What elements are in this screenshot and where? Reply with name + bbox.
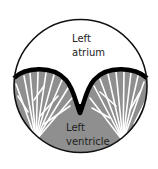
atrium-label-line1: Left bbox=[72, 33, 91, 44]
atrium-label-line2: atrium bbox=[72, 47, 105, 58]
diagram-canvas: Left atrium Left ventricle bbox=[0, 0, 158, 169]
ventricle-label-line1: Left bbox=[66, 122, 85, 133]
ventricle-label-line2: ventricle bbox=[66, 136, 110, 147]
mitral-valve-diagram: Left atrium Left ventricle bbox=[0, 0, 158, 169]
